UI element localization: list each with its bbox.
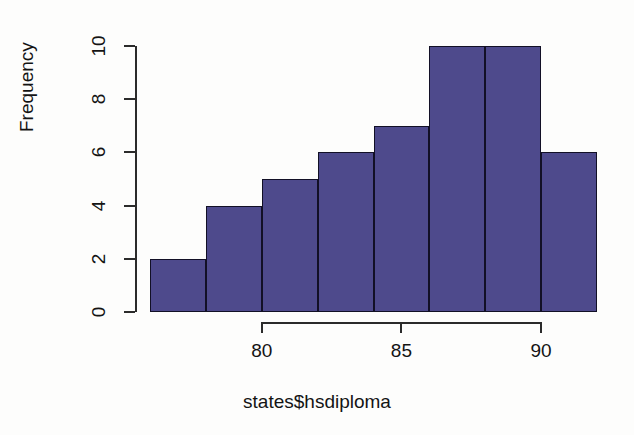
x-axis-tick (261, 322, 263, 333)
histogram-bar (374, 126, 430, 312)
y-axis-tick (124, 311, 135, 313)
histogram-bar (318, 152, 374, 312)
y-axis-tick-label: 2 (88, 239, 110, 279)
x-axis-tick-label: 85 (371, 340, 431, 362)
y-axis-tick (124, 45, 135, 47)
plot-area: 0246810808590 (0, 0, 634, 435)
x-axis-tick (400, 322, 402, 333)
y-axis-tick-label: 6 (88, 132, 110, 172)
y-axis-tick (124, 258, 135, 260)
x-axis-tick-label: 80 (232, 340, 292, 362)
histogram-bar (485, 46, 541, 312)
y-axis-label: Frequency (16, 0, 38, 132)
histogram-bar (262, 179, 318, 312)
y-axis-tick (124, 98, 135, 100)
x-axis-tick-label: 90 (511, 340, 571, 362)
x-axis-label: states$hsdiploma (0, 391, 634, 413)
y-axis-tick (124, 151, 135, 153)
x-axis-tick (540, 322, 542, 333)
y-axis-tick (124, 205, 135, 207)
histogram-bar (150, 259, 206, 312)
y-axis-tick-label: 4 (88, 186, 110, 226)
y-axis-tick-label: 0 (88, 292, 110, 332)
y-axis-tick-label: 8 (88, 79, 110, 119)
histogram-bar (541, 152, 597, 312)
histogram-bar (206, 206, 262, 312)
y-axis-line (135, 46, 137, 312)
y-axis-tick-label: 10 (88, 26, 110, 66)
histogram-figure: 0246810808590 Frequency states$hsdiploma (0, 0, 634, 435)
histogram-bar (429, 46, 485, 312)
